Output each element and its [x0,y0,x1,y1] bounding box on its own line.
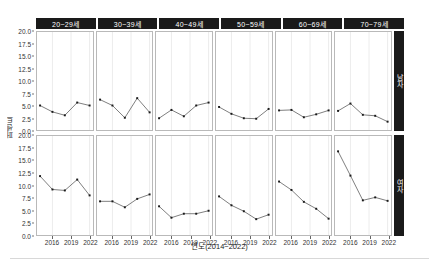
y-tick-mark [32,198,34,199]
facet-row-strip-female: 여자 [394,135,404,236]
facet-row-male [36,31,392,131]
facet-panel [334,135,392,236]
facet-column-strip-label: 30~39세 [114,19,141,29]
chart-figure: 퍼센트 20~29세30~39세40~49세50~59세60~69세70~79세… [0,0,439,266]
y-tick-label: 20.0 [18,28,31,35]
y-tick-mark [32,68,34,69]
y-tick-label: 15.0 [18,157,31,164]
y-tick-label: 10.0 [18,182,31,189]
y-tick-label: 17.5 [18,40,31,47]
facet-panel [155,135,213,236]
y-tick-label: 17.5 [18,144,31,151]
y-tick-mark [32,56,34,57]
facet-column-strip-5: 60~69세 [283,18,343,29]
facet-column-strip-label: 70~79세 [360,19,387,29]
x-axis-title: 연도(2014~2022) [0,240,439,251]
y-tick-mark [32,223,34,224]
y-tick-mark [32,172,34,173]
facet-column-strip-label: 50~59세 [237,19,264,29]
y-tick-label: 5.0 [22,103,31,110]
y-tick-mark [32,160,34,161]
facet-panel [334,31,392,131]
facet-column-strip-2: 30~39세 [98,18,158,29]
y-tick-mark [32,131,34,132]
y-tick-label: 20.0 [18,132,31,139]
y-tick-mark [32,118,34,119]
y-tick-label: 7.5 [22,90,31,97]
y-tick-mark [32,81,34,82]
facet-column-strip-label: 20~29세 [52,19,79,29]
facet-column-strip-4: 50~59세 [221,18,281,29]
facet-panel [155,31,213,131]
facet-column-strip-6: 70~79세 [344,18,404,29]
facet-column-strip-3: 40~49세 [159,18,219,29]
y-tick-mark [32,135,34,136]
facet-panel [275,31,333,131]
y-tick-mark [32,106,34,107]
y-tick-mark [32,93,34,94]
facet-row-strip-female-label: 여자 [394,179,404,193]
y-tick-label: 2.5 [22,220,31,227]
y-tick-mark [32,210,34,211]
facet-row-female [36,135,392,236]
y-tick-label: 10.0 [18,78,31,85]
facet-row-strips: 남자 여자 [394,31,404,236]
y-tick-mark [32,236,34,237]
y-tick-label: 12.5 [18,169,31,176]
facet-column-strip-1: 20~29세 [36,18,96,29]
y-axis-ticks-row2: 0.02.55.07.510.012.515.017.520.0 [0,135,34,236]
footer-divider [10,258,429,259]
facet-panel [215,31,273,131]
y-tick-mark [32,147,34,148]
y-tick-label: 0.0 [22,233,31,240]
y-tick-mark [32,185,34,186]
y-tick-label: 5.0 [22,207,31,214]
y-axis-ticks-row1: 0.02.55.07.510.012.515.017.520.0 [0,31,34,131]
y-tick-label: 15.0 [18,53,31,60]
facet-panel [96,31,154,131]
facet-row-strip-male: 남자 [394,31,404,131]
y-tick-mark [32,31,34,32]
y-tick-label: 2.5 [22,115,31,122]
facet-column-strip-label: 60~69세 [299,19,326,29]
facet-panel [215,135,273,236]
facet-panel [275,135,333,236]
facet-panel [36,135,94,236]
y-tick-label: 12.5 [18,65,31,72]
facet-column-strip-label: 40~49세 [175,19,202,29]
facet-column-strips: 20~29세30~39세40~49세50~59세60~69세70~79세 [36,18,404,29]
facet-panel [96,135,154,236]
y-tick-mark [32,43,34,44]
y-tick-label: 7.5 [22,195,31,202]
facet-panel [36,31,94,131]
facet-row-strip-male-label: 남자 [394,74,404,88]
